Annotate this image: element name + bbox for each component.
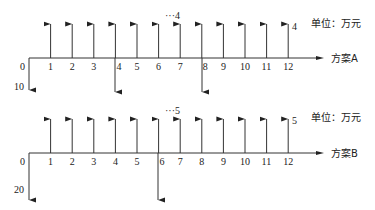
cash-flow-diagram: 0123456789101112 10 ···4 4 单位：万元 方案A 012…: [0, 0, 375, 210]
plan-a-inflow-arrows: [51, 24, 289, 58]
plan-a-diagram: 0123456789101112 10 ···4 4 单位：万元 方案A: [14, 10, 361, 92]
period-label: 8: [203, 61, 208, 72]
plan-a-name: 方案A: [331, 52, 358, 64]
period-label: 7: [178, 156, 183, 167]
period-label: 4: [113, 156, 118, 167]
period-label: 1: [48, 61, 53, 72]
plan-a-axis-arrowhead: [316, 56, 324, 60]
plan-b-inflow-label-end: 5: [292, 115, 297, 126]
period-label: 5: [135, 156, 140, 167]
plan-a-period-labels: 0123456789101112: [20, 61, 293, 72]
period-label: 3: [91, 156, 96, 167]
period-label: 3: [91, 61, 96, 72]
period-label: 10: [240, 156, 250, 167]
period-label: 12: [283, 156, 293, 167]
period-label: 0: [20, 61, 25, 72]
period-label: 11: [262, 61, 272, 72]
plan-a-inflow-label-end: 4: [292, 21, 297, 32]
plan-a-unit-label: 单位：万元: [311, 17, 361, 29]
period-label: 11: [262, 156, 272, 167]
plan-b-diagram: 0123456789101112 20 ···5 5 单位：万元 方案B: [14, 105, 361, 200]
period-label: 7: [178, 61, 183, 72]
plan-b-period-labels: 0123456789101112: [20, 156, 293, 167]
period-label: 8: [199, 156, 204, 167]
period-label: 6: [156, 61, 161, 72]
plan-a-inflow-label-mid: ···4: [165, 10, 180, 21]
plan-b-inflow-arrows: [51, 119, 289, 153]
period-label: 2: [70, 156, 75, 167]
period-label: 6: [160, 156, 165, 167]
plan-b-name: 方案B: [331, 147, 358, 159]
period-label: 4: [116, 61, 121, 72]
period-label: 2: [70, 61, 75, 72]
period-label: 1: [48, 156, 53, 167]
plan-b-axis-arrowhead: [316, 151, 324, 155]
period-label: 10: [240, 61, 250, 72]
period-label: 9: [221, 156, 226, 167]
plan-b-inflow-label-mid: ···5: [165, 105, 180, 116]
plan-a-initial-outflow-label: 10: [14, 81, 24, 92]
period-label: 12: [283, 61, 293, 72]
plan-b-unit-label: 单位：万元: [311, 111, 361, 123]
period-label: 9: [221, 61, 226, 72]
plan-b-initial-outflow-label: 20: [14, 184, 24, 195]
period-label: 5: [135, 61, 140, 72]
period-label: 0: [20, 156, 25, 167]
